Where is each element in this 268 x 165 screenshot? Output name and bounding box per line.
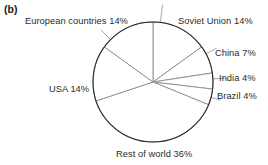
slice-label-soviet-union: Soviet Union 14%: [178, 16, 253, 27]
slice-label-brazil: Brazil 4%: [217, 91, 257, 102]
label-leader-line: [160, 5, 162, 23]
label-leader-line: [101, 30, 111, 40]
slice-label-usa: USA 14%: [49, 84, 89, 95]
slice-label-rest-of-world: Rest of world 36%: [116, 149, 192, 160]
figure-panel: (b) European countries 14% Soviet Union …: [0, 0, 268, 165]
slice-label-china: China 7%: [215, 48, 256, 59]
slice-label-european-countries: European countries 14%: [25, 16, 128, 27]
slice-label-india: India 4%: [219, 73, 256, 84]
